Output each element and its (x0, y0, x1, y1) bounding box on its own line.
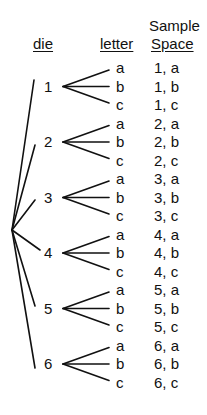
sample-space-item: 3, b (154, 189, 179, 207)
sample-space-item: 5, c (154, 318, 178, 336)
sample-space-item: 6, a (154, 337, 179, 355)
letter-outcome-1c: c (116, 96, 124, 114)
letter-outcome-6a: a (116, 337, 124, 355)
sample-space-item: 2, c (154, 152, 178, 170)
sample-space-item: 4, a (154, 226, 179, 244)
sample-space-item: 4, c (154, 263, 178, 281)
letter-outcome-4c: c (116, 263, 124, 281)
die-outcome-2: 2 (44, 133, 52, 151)
die-outcome-3: 3 (44, 189, 52, 207)
branch-die-3-to-a (63, 181, 109, 198)
sample-space-item: 4, b (154, 244, 179, 262)
sample-space-item: 1, c (154, 96, 178, 114)
letter-outcome-5a: a (116, 281, 124, 299)
branch-root-to-die-2 (12, 145, 35, 230)
letter-outcome-5b: b (116, 300, 124, 318)
branch-die-5-to-a (63, 292, 109, 309)
sample-space-header-line2: Space (151, 35, 194, 53)
letter-outcome-4a: a (116, 226, 124, 244)
letter-outcome-1a: a (116, 59, 124, 77)
sample-space-item: 3, c (154, 207, 178, 225)
letter-outcome-2a: a (116, 115, 124, 133)
sample-space-item: 1, b (154, 78, 179, 96)
branch-die-1-to-c (63, 87, 109, 104)
die-header: die (33, 35, 53, 53)
branch-die-4-to-c (63, 253, 109, 270)
letter-outcome-3c: c (116, 207, 124, 225)
letter-outcome-4b: b (116, 244, 124, 262)
branch-die-6-to-c (63, 364, 109, 381)
die-outcome-5: 5 (44, 300, 52, 318)
letter-outcome-5c: c (116, 318, 124, 336)
branch-root-to-die-1 (12, 80, 34, 230)
letter-outcome-3a: a (116, 170, 124, 188)
branch-root-to-die-6 (12, 230, 35, 368)
branch-die-2-to-a (63, 126, 109, 143)
sample-space-item: 2, b (154, 133, 179, 151)
letter-outcome-6c: c (116, 374, 124, 392)
letter-outcome-1b: b (116, 78, 124, 96)
die-outcome-6: 6 (44, 355, 52, 373)
branch-root-to-die-4 (12, 230, 40, 250)
branch-die-1-to-a (63, 70, 109, 87)
sample-space-item: 5, a (154, 281, 179, 299)
branch-die-4-to-a (63, 237, 109, 254)
sample-space-item: 6, b (154, 355, 179, 373)
letter-outcome-6b: b (116, 355, 124, 373)
die-outcome-4: 4 (44, 244, 52, 262)
sample-space-item: 1, a (154, 59, 179, 77)
sample-space-item: 6, c (154, 374, 178, 392)
letter-outcome-3b: b (116, 189, 124, 207)
sample-space-item: 2, a (154, 115, 179, 133)
letter-header: letter (100, 35, 133, 53)
branch-die-2-to-c (63, 142, 109, 159)
letter-outcome-2c: c (116, 152, 124, 170)
sample-space-item: 5, b (154, 300, 179, 318)
sample-space-item: 3, a (154, 170, 179, 188)
die-outcome-1: 1 (44, 78, 52, 96)
letter-outcome-2b: b (116, 133, 124, 151)
branch-die-5-to-c (63, 309, 109, 326)
tree-diagram: die letter Sample Space 1a1, ab1, bc1, c… (0, 0, 207, 415)
branch-die-3-to-c (63, 198, 109, 215)
branch-die-6-to-a (63, 348, 109, 365)
sample-space-header-line1: Sample (149, 17, 200, 35)
